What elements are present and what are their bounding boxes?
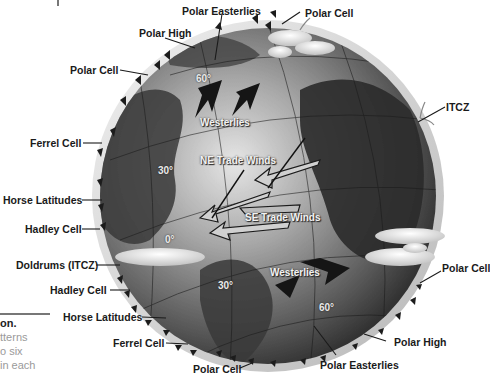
label-polar-easterlies-north: Polar Easterlies bbox=[182, 5, 261, 17]
caption-title-fragment: on. bbox=[0, 317, 17, 330]
label-polar-high-south: Polar High bbox=[394, 336, 447, 348]
label-horse-latitudes-south: Horse Latitudes bbox=[63, 311, 142, 323]
label-ferrel-cell-north: Ferrel Cell bbox=[30, 137, 81, 149]
label-ne-trade-winds: NE Trade Winds bbox=[200, 155, 276, 167]
label-polar-cell-south: Polar Cell bbox=[193, 363, 241, 375]
latitude-30n: 30° bbox=[158, 165, 173, 177]
label-se-trade-winds: SE Trade Winds bbox=[245, 212, 320, 224]
label-horse-latitudes-north: Horse Latitudes bbox=[3, 194, 82, 206]
caption-divider bbox=[0, 313, 50, 315]
label-polar-cell-northeast: Polar Cell bbox=[305, 7, 353, 19]
label-westerlies-north: Westerlies bbox=[200, 117, 250, 129]
latitude-60n: 60° bbox=[196, 73, 211, 85]
latitude-equator: 0° bbox=[165, 234, 175, 246]
caption-line-3: in each bbox=[0, 359, 35, 372]
label-itcz: ITCZ bbox=[446, 101, 469, 113]
latitude-60s: 60° bbox=[319, 302, 334, 314]
latitude-30s: 30° bbox=[218, 280, 233, 292]
label-ferrel-cell-south: Ferrel Cell bbox=[113, 337, 164, 349]
label-polar-cell-southeast: Polar Cell bbox=[442, 262, 490, 274]
label-polar-cell-northwest: Polar Cell bbox=[70, 64, 118, 76]
label-doldrums-itcz: Doldrums (ITCZ) bbox=[16, 259, 98, 271]
label-polar-high-north: Polar High bbox=[139, 27, 192, 39]
label-westerlies-south: Westerlies bbox=[270, 267, 320, 279]
label-hadley-cell-north: Hadley Cell bbox=[25, 223, 82, 235]
label-polar-easterlies-south: Polar Easterlies bbox=[320, 359, 399, 371]
caption-line-1: tterns bbox=[0, 331, 28, 344]
caption-line-2: o six bbox=[0, 345, 23, 358]
label-hadley-cell-south: Hadley Cell bbox=[50, 284, 107, 296]
